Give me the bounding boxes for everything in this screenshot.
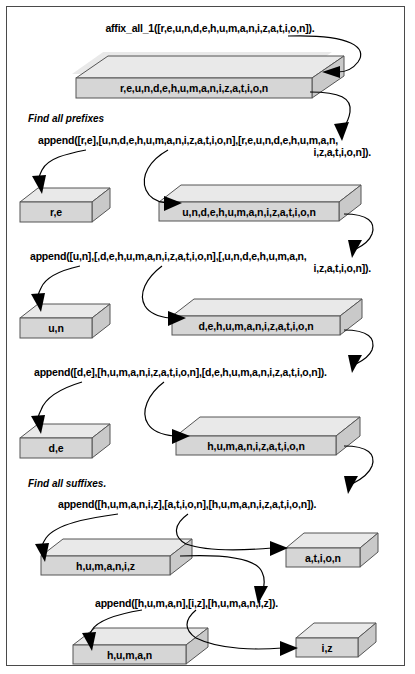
slab-prefix-re: r,e bbox=[18, 186, 112, 224]
slab-rest-humanization: h,u,m,a,n,i,z,a,t,i,o,n bbox=[172, 414, 362, 458]
slab-rest-dehu-label: d,e,h,u,m,a,n,i,z,a,t,i,o,n bbox=[198, 320, 313, 332]
slab-prefix-un-label: u,n bbox=[48, 322, 63, 334]
slab-suffix-humaniz: h,u,m,a,n,i,z bbox=[38, 536, 194, 578]
slab-rest-dehu: d,e,h,u,m,a,n,i,z,a,t,i,o,n bbox=[168, 296, 364, 338]
slab-rest-unde: u,n,d,e,h,u,m,a,n,i,z,a,t,i,o,n bbox=[155, 182, 363, 224]
call-3: append([d,e],[h,u,m,a,n,i,z,a,t,i,o,n],[… bbox=[34, 366, 327, 379]
call-2-line-1: append([u,n],[,d,e,h,u,m,a,n,i,z,a,t,i,o… bbox=[30, 250, 307, 263]
slab-suffix-humaniz-label: h,u,m,a,n,i,z bbox=[76, 560, 135, 572]
slab-prefix-de: d,e bbox=[18, 422, 112, 460]
slab-prefix-un: u,n bbox=[18, 302, 112, 340]
slab-suffix-iz-label: i,z bbox=[322, 642, 333, 654]
slab-root: r,e,u,n,d,e,h,u,m,a,n,i,z,a,t,i,o,n bbox=[58, 52, 346, 100]
call-5: append([h,u,m,a,n],[i,z],[h,u,m,a,n,i,z]… bbox=[95, 597, 278, 610]
call-2-line-2: i,z,a,t,i,o,n]). bbox=[30, 262, 371, 275]
label-find-all-suffixes: Find all suffixes. bbox=[28, 478, 106, 489]
slab-rest-humanization-label: h,u,m,a,n,i,z,a,t,i,o,n bbox=[207, 440, 304, 452]
slab-suffix-ation-label: a,t,i,o,n bbox=[305, 552, 341, 564]
slab-rest-unde-label: u,n,d,e,h,u,m,a,n,i,z,a,t,i,o,n bbox=[182, 206, 315, 218]
affix-all-trace-diagram: affix_all_1([r,e,u,n,d,e,h,u,m,a,n,i,z,a… bbox=[0, 0, 415, 674]
slab-suffix-human-label: h,u,m,a,n bbox=[107, 649, 152, 661]
slab-suffix-iz: i,z bbox=[294, 620, 378, 660]
slab-prefix-re-label: r,e bbox=[50, 206, 62, 218]
slab-prefix-de-label: d,e bbox=[49, 442, 64, 454]
call-1-line-1: append([r,e],[u,n,d,e,h,u,m,a,n,i,z,a,t,… bbox=[38, 134, 338, 147]
call-4: append([h,u,m,a,n,i,z],[a,t,i,o,n],[h,u,… bbox=[58, 498, 316, 511]
label-find-all-prefixes: Find all prefixes bbox=[28, 113, 104, 124]
slab-suffix-human: h,u,m,a,n bbox=[70, 625, 210, 667]
title-call: affix_all_1([r,e,u,n,d,e,h,u,m,a,n,i,z,a… bbox=[75, 22, 345, 35]
slab-suffix-ation: a,t,i,o,n bbox=[284, 530, 380, 570]
call-1-line-2: i,z,a,t,i,o,n]). bbox=[38, 146, 371, 159]
slab-root-label: r,e,u,n,d,e,h,u,m,a,n,i,z,a,t,i,o,n bbox=[120, 82, 268, 94]
